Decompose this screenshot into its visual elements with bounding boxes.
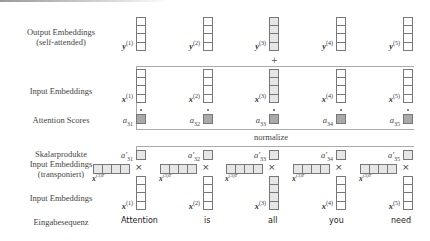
transposed-label-4: x(3)T [292, 173, 304, 183]
output-label-1: y(1) [122, 40, 133, 51]
input-label-4: x(4) [322, 93, 333, 104]
transposed-label-3: x(3)T [225, 173, 237, 183]
score-box-5 [403, 114, 413, 124]
norm-score-box-1 [136, 150, 146, 160]
bottom-input-label-2: x(2) [189, 200, 200, 211]
input-vector-5 [403, 69, 413, 103]
output-vector-3 [269, 17, 279, 51]
input-label-3: x(3) [255, 93, 266, 104]
norm-score-label-2: a′32 [188, 150, 200, 162]
token-word-4: you [329, 216, 344, 225]
score-box-1 [136, 114, 146, 124]
token-column-5: y(5) x(5) a35 a′35 × x(3)T x(5) need [403, 0, 413, 241]
row-label-input-top: Input Embeddings [0, 86, 122, 96]
row-label-output-text: Output Embeddings [0, 27, 122, 37]
transposed-label-2: x(3)T [159, 173, 171, 183]
times-icon: × [202, 162, 210, 172]
bottom-input-label-3: x(3) [255, 200, 266, 211]
bottom-input-vector-2 [203, 176, 213, 210]
dot-product-icon [407, 109, 409, 111]
output-label-4: y(4) [322, 40, 333, 51]
row-label-sequence: Eingabesequenz [0, 217, 122, 227]
token-column-3: y(3) x(3) a33 a′33 × x(3)T x(3) all [269, 0, 279, 241]
input-label-1: x(1) [122, 93, 133, 104]
row-label-output: Output Embeddings (self-attended) [0, 27, 122, 47]
score-label-4: a34 [323, 115, 333, 127]
row-label-scores: Attention Scores [0, 115, 122, 125]
output-label-3: y(3) [255, 40, 266, 51]
score-label-5: a35 [390, 115, 400, 127]
output-label-2: y(2) [189, 40, 200, 51]
input-vector-1 [136, 69, 146, 103]
norm-score-label-5: a′35 [388, 150, 400, 162]
output-vector-1 [136, 17, 146, 51]
bottom-input-vector-3 [269, 176, 279, 210]
token-column-1: y(1) x(1) a31 a′31 × x(3)T x(1) Attentio… [136, 0, 146, 241]
bottom-input-label-4: x(4) [322, 200, 333, 211]
score-box-2 [203, 114, 213, 124]
token-column-2: y(2) x(2) a32 a′32 × x(3)T x(2) is [203, 0, 213, 241]
input-label-2: x(2) [189, 93, 200, 104]
score-box-4 [336, 114, 346, 124]
output-vector-4 [336, 17, 346, 51]
row-label-input-bottom: Input Embeddings [0, 193, 122, 203]
norm-score-label-1: a′31 [121, 150, 133, 162]
transposed-label-5: x(3)T [359, 173, 371, 183]
times-icon: × [135, 162, 143, 172]
token-column-4: y(4) x(4) a34 a′34 × x(3)T x(4) you [336, 0, 346, 241]
token-word-5: need [391, 216, 411, 225]
times-icon: × [335, 162, 343, 172]
token-word-2: is [204, 216, 210, 225]
norm-score-label-4: a′34 [321, 150, 333, 162]
times-icon: × [402, 162, 410, 172]
score-label-1: a31 [123, 115, 133, 127]
score-box-3 [269, 114, 279, 124]
output-vector-5 [403, 17, 413, 51]
bottom-input-label-5: x(5) [389, 200, 400, 211]
input-label-5: x(5) [389, 93, 400, 104]
input-vector-4 [336, 69, 346, 103]
token-word-1: Attention [121, 216, 158, 225]
output-vector-2 [203, 17, 213, 51]
times-icon: × [268, 162, 276, 172]
norm-score-box-3 [269, 150, 279, 160]
transposed-label-1: x(3)T [92, 173, 104, 183]
norm-score-box-5 [403, 150, 413, 160]
row-label-output-sub: (self-attended) [0, 37, 122, 47]
score-label-2: a32 [190, 115, 200, 127]
bottom-input-vector-4 [336, 176, 346, 210]
row-label-dot-products: Skalarprodukte [0, 149, 122, 159]
bottom-input-vector-5 [403, 176, 413, 210]
bottom-input-vector-1 [136, 176, 146, 210]
dot-product-icon [273, 109, 275, 111]
dot-product-icon [340, 109, 342, 111]
bottom-input-label-1: x(1) [122, 200, 133, 211]
norm-score-box-4 [336, 150, 346, 160]
score-label-3: a33 [256, 115, 266, 127]
output-label-5: y(5) [389, 40, 400, 51]
dot-product-icon [207, 109, 209, 111]
token-word-3: all [268, 216, 277, 225]
norm-score-box-2 [203, 150, 213, 160]
input-vector-2 [203, 69, 213, 103]
dot-product-icon [140, 109, 142, 111]
input-vector-3 [269, 69, 279, 103]
norm-score-label-3: a′33 [254, 150, 266, 162]
